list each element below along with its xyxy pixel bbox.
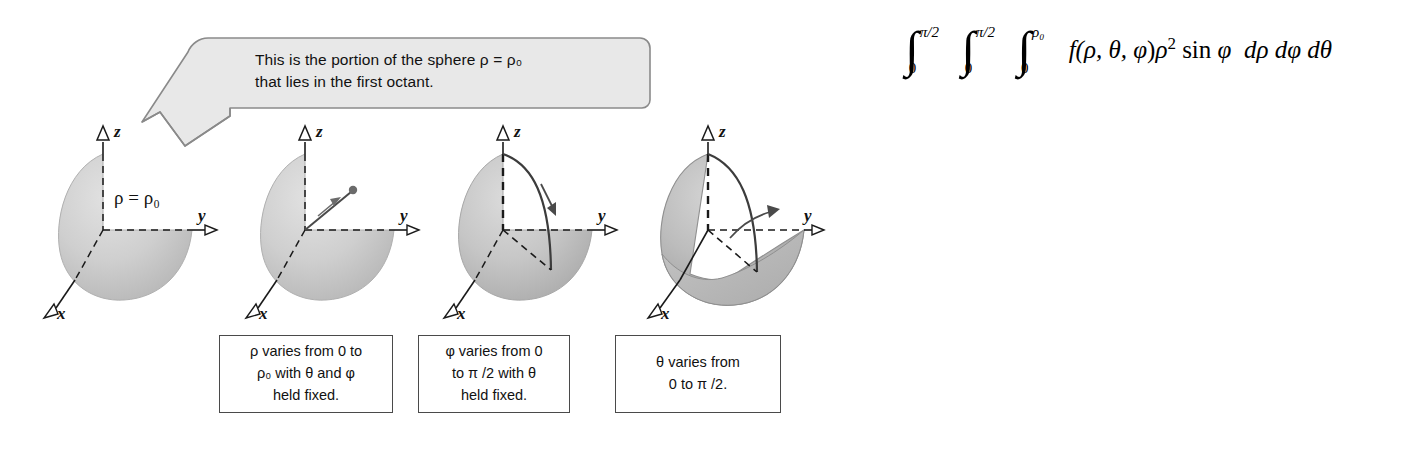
theta-meridian-arc	[708, 154, 757, 272]
panel-1-surface-label: ρ = ρ₀	[114, 187, 160, 209]
caption-rho-line-3: held fixed.	[250, 385, 362, 407]
callout-text: This is the portion of the sphere ρ = ρ₀…	[255, 49, 655, 94]
panel-3: z y x	[420, 112, 620, 324]
panel-4: z y x	[618, 112, 828, 324]
figure-root: This is the portion of the sphere ρ = ρ₀…	[0, 0, 1416, 449]
integrand-rho-exponent: 2	[1167, 34, 1176, 53]
caption-box-phi: φ varies from 0 to π /2 with θ held fixe…	[418, 335, 570, 413]
differential-phi: dφ	[1275, 36, 1301, 63]
integral-inner-upper: ρ₀	[1032, 25, 1044, 41]
integrand-function-name: f(	[1069, 36, 1084, 63]
panel-1-axis-label-y: y	[198, 206, 206, 226]
integral-middle-lower: 0	[965, 61, 984, 77]
caption-phi-line-2: to π /2 with θ	[445, 363, 542, 385]
integral-outer-lower: 0	[909, 61, 928, 77]
caption-theta-line-2: 0 to π /2.	[656, 374, 740, 396]
integral-limits-outer: π/20	[920, 36, 939, 68]
panel-3-graphic	[420, 112, 620, 324]
integral-middle-upper: π/2	[976, 25, 995, 41]
panel-1: z y x ρ = ρ₀	[20, 112, 220, 324]
panel-4-axis-label-x: x	[661, 304, 670, 324]
callout-line-2: that lies in the first octant.	[255, 71, 655, 93]
caption-box-theta: θ varies from 0 to π /2.	[615, 335, 781, 413]
caption-box-rho: ρ varies from 0 to ρ₀ with θ and φ held …	[219, 335, 393, 413]
rho-endpoint-dot	[349, 186, 357, 194]
panel-2-axis-label-x: x	[259, 304, 268, 324]
caption-phi-line-1: φ varies from 0	[445, 341, 542, 363]
integrand-rho: ρ	[1155, 36, 1167, 63]
caption-rho-line-2: ρ₀ with θ and φ	[250, 363, 362, 385]
panel-3-axis-label-y: y	[598, 206, 606, 226]
panel-1-axis-label-x: x	[57, 304, 66, 324]
panel-2-graphic	[222, 112, 422, 324]
panel-1-graphic	[20, 112, 220, 324]
caption-theta-line-1: θ varies from	[656, 352, 740, 374]
panel-1-axis-label-z: z	[114, 122, 121, 142]
callout-line-1: This is the portion of the sphere ρ = ρ₀	[255, 49, 655, 71]
integrand-sin-arg: φ	[1218, 36, 1232, 63]
integrand-sin: sin	[1182, 36, 1211, 63]
panel-4-axis-label-z: z	[719, 122, 726, 142]
integral-limits-middle: π/20	[976, 36, 995, 68]
panel-2: z y x	[222, 112, 422, 324]
theta-sweep-arrow	[730, 212, 770, 238]
caption-phi-line-3: held fixed.	[445, 385, 542, 407]
rho-ray	[305, 192, 351, 230]
integral-inner-lower: 0	[1021, 61, 1033, 77]
panel-4-graphic	[618, 112, 828, 324]
panel-2-axis-label-z: z	[316, 122, 323, 142]
panel-3-axis-label-x: x	[457, 304, 466, 324]
differential-theta: dθ	[1307, 36, 1332, 63]
panel-3-axis-label-z: z	[514, 122, 521, 142]
caption-rho-line-1: ρ varies from 0 to	[250, 341, 362, 363]
integrand-arguments: ρ, θ, φ	[1084, 36, 1147, 63]
panel-2-axis-label-y: y	[400, 206, 408, 226]
integral-expression: ∫π/20 ∫π/20 ∫ρ₀0 f(ρ, θ, φ)ρ2 sin φ dρ d…	[905, 34, 1332, 68]
integral-limits-inner: ρ₀0	[1032, 36, 1044, 68]
panel-4-axis-label-y: y	[804, 206, 812, 226]
integral-outer-upper: π/2	[920, 25, 939, 41]
differential-rho: dρ	[1244, 36, 1269, 63]
